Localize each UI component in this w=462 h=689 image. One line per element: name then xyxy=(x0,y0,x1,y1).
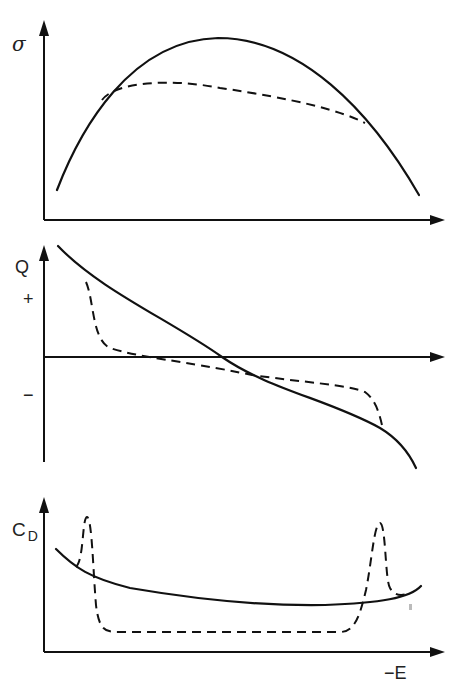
curve-sigma-dashed xyxy=(102,83,365,123)
curve-capacitance-dashed xyxy=(76,517,407,632)
y-axis-arrow-icon xyxy=(39,20,49,36)
speck-mark xyxy=(409,604,412,610)
x-axis-arrow-icon xyxy=(430,215,445,225)
y-label-sigma: σ xyxy=(12,34,26,54)
curve-capacitance-solid xyxy=(56,549,421,605)
x-axis-arrow-icon xyxy=(430,352,445,362)
x-label-potential: −E xyxy=(384,664,407,682)
figure-canvas xyxy=(0,0,462,689)
curve-sigma-solid xyxy=(57,38,419,195)
y-label-capacitance: CD xyxy=(12,520,38,539)
tick-minus: − xyxy=(23,386,34,404)
y-label-capacitance-main: C xyxy=(12,519,26,540)
x-axis-arrow-icon xyxy=(430,647,445,657)
y-label-charge: Q xyxy=(15,258,29,276)
panel-sigma xyxy=(39,20,445,225)
tick-plus: + xyxy=(23,290,34,308)
panel-charge xyxy=(39,245,445,468)
y-axis-arrow-icon xyxy=(39,497,49,513)
panel-capacitance xyxy=(39,497,445,657)
y-axis-arrow-icon xyxy=(39,245,49,261)
y-label-capacitance-sub: D xyxy=(28,528,38,544)
